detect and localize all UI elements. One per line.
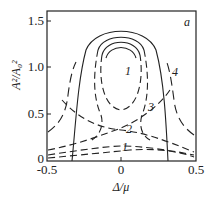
xtick-0.5: 0.5 <box>188 162 204 177</box>
ytick-0.5: 0.5 <box>28 106 44 121</box>
curve-label-3: 3 <box>147 100 154 114</box>
xtick-neg0.5: -0.5 <box>37 162 58 177</box>
curve-inner-top <box>106 48 136 59</box>
curve-right-dashed <box>166 60 194 135</box>
curve-2-b <box>48 90 170 150</box>
curve-label-1: 1 <box>125 64 131 78</box>
curve-1-lower <box>48 146 194 155</box>
ytick-1.5: 1.5 <box>28 13 44 28</box>
curve-4 <box>72 31 168 161</box>
curve-1-bottom <box>101 55 141 110</box>
curve-label-1-lower: 1 <box>122 140 128 154</box>
ytick-1.0: 1.0 <box>28 59 44 74</box>
chart: 1.5 1.0 0.5 0 -0.5 0 0.5 Δ/μ A²/A₀² a 1 … <box>0 0 216 201</box>
curve-1-top <box>102 42 140 55</box>
curve-3-top <box>98 37 144 50</box>
xtick-0: 0 <box>118 162 125 177</box>
plot-frame <box>47 11 196 161</box>
y-axis-label: A²/A₀² <box>9 60 23 91</box>
curve-left-dashed <box>48 62 76 132</box>
curve-label-2: 2 <box>126 122 132 136</box>
curve-3-left <box>92 50 102 140</box>
curve-3-right <box>141 50 150 140</box>
curve-label-4: 4 <box>172 65 178 79</box>
panel-label: a <box>184 15 190 29</box>
x-axis-label: Δ/μ <box>112 180 129 194</box>
